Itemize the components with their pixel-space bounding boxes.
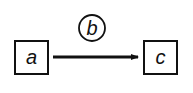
node-a-label: a: [26, 46, 37, 68]
node-b: b: [79, 15, 105, 41]
node-b-label: b: [86, 17, 97, 39]
node-c-label: c: [156, 46, 166, 68]
node-a: a: [15, 41, 48, 74]
node-c: c: [144, 41, 177, 74]
diagram-canvas: a b c: [0, 0, 193, 93]
